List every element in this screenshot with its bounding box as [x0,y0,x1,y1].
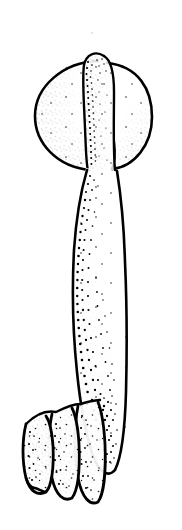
specimen-illustration [0,0,182,530]
figure-container: Black and white stippled scientific draw… [0,0,182,530]
ink-fleck [91,32,93,34]
